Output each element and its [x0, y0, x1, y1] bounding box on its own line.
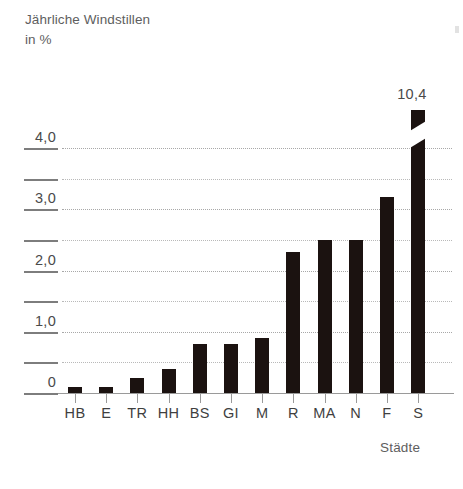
x-axis-tick-M — [262, 393, 263, 403]
x-axis-tick-TR — [137, 393, 138, 403]
plot-area: HBETRHHBSGIMRMANFS — [62, 90, 452, 393]
bar-F — [380, 197, 394, 393]
gridline-4 — [62, 148, 452, 149]
bar-HH — [162, 369, 176, 394]
x-axis-label-S: S — [398, 405, 438, 421]
chart-subtitle-unit: in % — [25, 30, 150, 50]
gridline-3-5 — [62, 179, 452, 180]
y-axis-tick-4 — [24, 148, 58, 150]
y-axis-tick-2-5 — [24, 240, 58, 242]
scan-artifact — [455, 26, 459, 33]
x-axis-tick-F — [387, 393, 388, 403]
y-axis-label-2-0: 2,0 — [0, 252, 56, 268]
y-axis-tick-0-5 — [24, 362, 58, 364]
x-axis-tick-MA — [325, 393, 326, 403]
x-axis-tick-N — [356, 393, 357, 403]
bar-BS — [193, 344, 207, 393]
y-axis-label-3-0: 3,0 — [0, 190, 56, 206]
y-axis-tick-3 — [24, 209, 58, 211]
x-axis-tick-S — [418, 393, 419, 403]
bar-GI — [224, 344, 238, 393]
bar-S — [411, 110, 425, 393]
bar-value-label-S: 10,4 — [397, 86, 426, 102]
x-axis-tick-HB — [75, 393, 76, 403]
bar-R — [286, 252, 300, 393]
y-axis-label-4-0: 4,0 — [0, 129, 56, 145]
x-axis-title: Städte — [380, 440, 420, 455]
y-axis-label-1-0: 1,0 — [0, 313, 56, 329]
bar-TR — [130, 378, 144, 393]
bar-MA — [318, 240, 332, 393]
chart-title-block: Jährliche Windstillen in % — [25, 10, 150, 49]
x-axis-baseline — [54, 393, 454, 394]
y-axis-tick-1 — [24, 332, 58, 334]
y-axis-tick-1-5 — [24, 301, 58, 303]
bar-M — [255, 338, 269, 393]
bar-N — [349, 240, 363, 393]
x-axis-tick-GI — [231, 393, 232, 403]
y-axis-tick-2 — [24, 271, 58, 273]
chart-root: Jährliche Windstillen in % HBETRHHBSGIMR… — [0, 0, 463, 489]
axis-break-mark — [409, 120, 427, 148]
y-axis-label-0: 0 — [0, 374, 56, 390]
y-axis-tick-3-5 — [24, 179, 58, 181]
x-axis-tick-E — [106, 393, 107, 403]
chart-title: Jährliche Windstillen — [25, 10, 150, 30]
x-axis-tick-R — [293, 393, 294, 403]
y-axis-tick-0 — [24, 393, 58, 395]
x-axis-tick-HH — [169, 393, 170, 403]
x-axis-tick-BS — [200, 393, 201, 403]
